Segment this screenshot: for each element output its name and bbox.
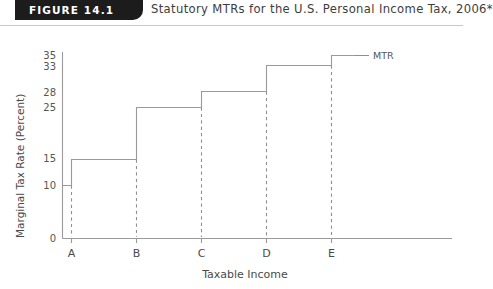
figure-number-tab: FIGURE 14.1 xyxy=(15,0,143,20)
x-tick-label-d: D xyxy=(262,247,270,260)
figure-number-label: FIGURE 14.1 xyxy=(29,4,114,16)
x-axis-title: Taxable Income xyxy=(201,268,288,281)
x-tick-label-e: E xyxy=(328,247,335,260)
y-tick-label: 35 xyxy=(43,50,56,61)
x-axis-tick-labels: A B C D E xyxy=(68,247,335,260)
x-axis-ticks xyxy=(72,239,332,244)
y-tick-label: 25 xyxy=(43,102,56,113)
y-axis-tick-labels: 35 33 28 25 15 10 0 xyxy=(43,50,56,244)
y-tick-label: 15 xyxy=(43,153,56,164)
figure-title: Statutory MTRs for the U.S. Personal Inc… xyxy=(151,2,493,16)
mtr-step-series xyxy=(63,56,356,186)
x-tick-label-c: C xyxy=(198,247,206,260)
y-tick-label: 10 xyxy=(43,180,56,191)
figure-header: FIGURE 14.1 Statutory MTRs for the U.S. … xyxy=(0,0,463,26)
y-tick-label: 33 xyxy=(43,61,56,72)
x-tick-label-a: A xyxy=(68,247,76,260)
step-chart: Marginal Tax Rate (Percent) 35 33 28 25 … xyxy=(0,26,463,289)
y-axis-title: Marginal Tax Rate (Percent) xyxy=(14,94,26,238)
y-tick-label: 0 xyxy=(50,233,56,244)
chart-plot-area: Marginal Tax Rate (Percent) 35 33 28 25 … xyxy=(0,26,463,289)
x-tick-label-b: B xyxy=(133,247,141,260)
mtr-series-label: MTR xyxy=(373,50,394,61)
y-tick-label: 28 xyxy=(43,87,56,98)
